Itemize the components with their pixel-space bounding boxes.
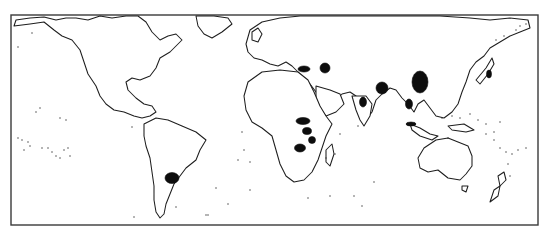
highlighted-region-japan-strip: [487, 70, 492, 78]
island-dot: [503, 35, 504, 36]
island-dot: [485, 133, 486, 134]
island-dot: [329, 195, 330, 196]
highlighted-region-anatolia-levant: [298, 66, 310, 72]
island-dot: [525, 23, 526, 24]
highlighted-region-central-india: [376, 82, 388, 94]
island-dot: [307, 197, 308, 198]
island-dot: [47, 147, 48, 148]
island-dot: [249, 161, 250, 162]
island-dot: [353, 195, 354, 196]
island-dot: [205, 214, 206, 215]
island-dot: [207, 214, 208, 215]
island-dot: [493, 139, 494, 140]
island-dot: [67, 147, 68, 148]
island-dot: [133, 216, 134, 217]
island-dot: [243, 149, 244, 150]
highlighted-region-east-africa-north: [296, 118, 310, 125]
island-dot: [27, 141, 28, 142]
island-dot: [477, 119, 478, 120]
island-dot: [17, 46, 18, 47]
island-dot: [35, 111, 36, 112]
highlighted-region-southern-africa: [295, 144, 306, 152]
island-dot: [215, 187, 216, 188]
island-dot: [447, 137, 448, 138]
highlighted-region-sumatra-strip: [406, 122, 416, 126]
island-dot: [131, 126, 132, 127]
island-dot: [241, 131, 242, 132]
island-dot: [59, 117, 60, 118]
island-dot: [509, 175, 510, 176]
island-dot: [373, 181, 374, 182]
highlighted-region-east-africa-mid: [303, 128, 312, 135]
island-dot: [334, 153, 335, 154]
island-dot: [517, 149, 518, 150]
island-dot: [511, 153, 512, 154]
island-dot: [495, 39, 496, 40]
world-map-svg: [0, 0, 548, 235]
island-dot: [29, 145, 30, 146]
island-dot: [357, 125, 358, 126]
highlighted-region-caucasus-iran: [320, 63, 330, 73]
island-dot: [41, 147, 42, 148]
island-dot: [59, 157, 60, 158]
island-dot: [339, 133, 340, 134]
island-dot: [51, 151, 52, 152]
island-dot: [459, 117, 460, 118]
island-dot: [227, 203, 228, 204]
island-dot: [17, 137, 18, 138]
island-dot: [507, 163, 508, 164]
island-dot: [451, 115, 452, 116]
island-dot: [499, 121, 500, 122]
island-dot: [493, 131, 494, 132]
island-dot: [65, 119, 66, 120]
island-dot: [55, 155, 56, 156]
highlighted-region-south-india: [360, 97, 367, 107]
island-dot: [63, 149, 64, 150]
island-dot: [325, 157, 326, 158]
island-dot: [237, 159, 238, 160]
island-dot: [39, 107, 40, 108]
highlighted-region-argentina-pampas: [165, 173, 179, 184]
highlighted-region-south-china-vietnam: [406, 99, 413, 109]
island-dot: [499, 147, 500, 148]
island-dot: [175, 206, 176, 207]
island-dot: [519, 25, 520, 26]
world-map: [0, 0, 548, 235]
island-dot: [441, 117, 442, 118]
island-dot: [21, 139, 22, 140]
island-dot: [515, 29, 516, 30]
highlighted-region-east-africa-south: [309, 137, 316, 144]
island-dot: [69, 155, 70, 156]
highlighted-region-east-china: [412, 71, 428, 93]
island-dot: [485, 123, 486, 124]
island-dot: [469, 113, 470, 114]
island-dot: [525, 147, 526, 148]
island-dot: [23, 149, 24, 150]
island-dot: [505, 151, 506, 152]
island-dot: [249, 189, 250, 190]
island-dot: [361, 205, 362, 206]
island-dot: [31, 32, 32, 33]
